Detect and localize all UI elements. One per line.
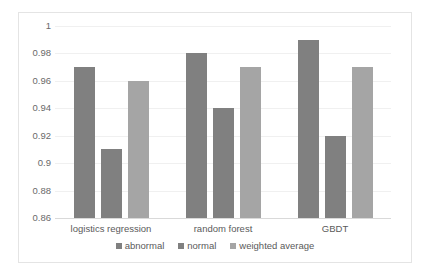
y-axis-tick-label: 0.96 bbox=[19, 76, 51, 86]
y-axis-tick-label: 0.86 bbox=[19, 213, 51, 223]
legend-label: weighted average bbox=[239, 241, 314, 251]
y-axis-tick-label: 0.98 bbox=[19, 49, 51, 59]
legend-item[interactable]: normal bbox=[178, 241, 216, 251]
bar[interactable] bbox=[298, 40, 319, 218]
legend-item[interactable]: weighted average bbox=[230, 241, 314, 251]
x-axis-tick-label: logistics regression bbox=[71, 222, 152, 236]
bar-group bbox=[167, 26, 279, 218]
legend-item[interactable]: abnormal bbox=[116, 241, 165, 251]
legend-label: normal bbox=[187, 241, 216, 251]
legend-swatch-icon bbox=[116, 243, 122, 249]
x-axis-tick-label: random forest bbox=[194, 222, 253, 236]
y-axis: 0.860.880.90.920.940.960.981 bbox=[19, 26, 51, 218]
bar[interactable] bbox=[325, 136, 346, 218]
chart-legend: abnormalnormalweighted average bbox=[19, 241, 411, 251]
bar[interactable] bbox=[128, 81, 149, 218]
legend-label: abnormal bbox=[125, 241, 165, 251]
plot-area bbox=[55, 26, 391, 218]
y-axis-tick-label: 0.92 bbox=[19, 131, 51, 141]
x-axis-tick-label: GBDT bbox=[322, 222, 348, 236]
legend-swatch-icon bbox=[178, 243, 184, 249]
bar[interactable] bbox=[74, 67, 95, 218]
bar[interactable] bbox=[240, 67, 261, 218]
gridline bbox=[55, 218, 391, 219]
bar-group bbox=[55, 26, 167, 218]
bar[interactable] bbox=[352, 67, 373, 218]
x-axis: logistics regressionrandom forestGBDT bbox=[55, 222, 391, 238]
y-axis-tick-label: 0.94 bbox=[19, 104, 51, 114]
bar[interactable] bbox=[213, 108, 234, 218]
bar-group bbox=[279, 26, 391, 218]
y-axis-tick-label: 0.88 bbox=[19, 186, 51, 196]
chart-container: 0.860.880.90.920.940.960.981 logistics r… bbox=[18, 12, 412, 263]
y-axis-tick-label: 1 bbox=[19, 21, 51, 31]
bar[interactable] bbox=[101, 149, 122, 218]
y-axis-tick-label: 0.9 bbox=[19, 158, 51, 168]
bar[interactable] bbox=[186, 53, 207, 218]
legend-swatch-icon bbox=[230, 243, 236, 249]
